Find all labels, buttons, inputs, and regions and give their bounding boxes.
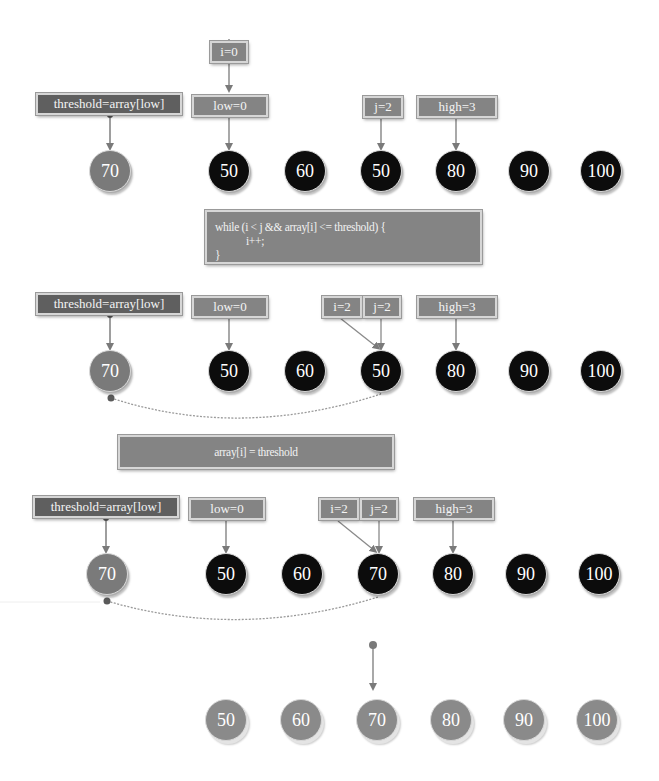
code-block-while-loop: while (i < j && array[i] <= threshold) {… — [205, 210, 482, 264]
array-node: 60 — [284, 150, 326, 192]
array-node: 80 — [435, 350, 477, 392]
j-pointer-label: j=2 — [363, 296, 401, 318]
result-arrow — [369, 641, 377, 688]
code-line: while (i < j && array[i] <= threshold) { — [215, 220, 472, 234]
array-node: 50 — [208, 350, 250, 392]
result-node: 80 — [430, 699, 472, 741]
threshold-label: threshold=array[low] — [36, 93, 182, 115]
array-node: 90 — [508, 350, 550, 392]
result-node: 90 — [503, 699, 545, 741]
threshold-node: 70 — [89, 350, 131, 392]
threshold-node: 70 — [86, 553, 128, 595]
array-node: 50 — [208, 150, 250, 192]
array-node: 50 — [360, 350, 402, 392]
high-pointer-label: high=3 — [414, 498, 494, 520]
connector-layer — [0, 0, 659, 781]
array-node: 60 — [284, 350, 326, 392]
i-pointer-label: i=2 — [319, 498, 359, 520]
diagram-canvas: i=0 threshold=array[low] low=0 j=2 high=… — [0, 0, 659, 781]
array-node: 50 — [205, 553, 247, 595]
code-line: i++; — [215, 234, 472, 248]
array-node: 80 — [432, 553, 474, 595]
code-line: } — [215, 248, 472, 262]
array-node: 90 — [505, 553, 547, 595]
high-pointer-label: high=3 — [417, 96, 497, 118]
result-node: 60 — [280, 699, 322, 741]
low-pointer-label: low=0 — [189, 498, 265, 520]
array-node: 100 — [580, 150, 622, 192]
array-node: 100 — [580, 350, 622, 392]
array-node: 60 — [281, 553, 323, 595]
step2-arrows — [107, 312, 456, 418]
result-node: 100 — [576, 699, 618, 741]
low-pointer-label: low=0 — [192, 95, 268, 117]
array-node: 50 — [360, 150, 402, 192]
array-node: 100 — [578, 553, 620, 595]
result-node: 70 — [356, 699, 398, 741]
i-pointer-label: i=2 — [322, 296, 362, 318]
j-pointer-label: j=2 — [360, 498, 398, 520]
low-pointer-label: low=0 — [192, 296, 268, 318]
threshold-node: 70 — [89, 150, 131, 192]
high-pointer-label: high=3 — [417, 296, 497, 318]
i-pointer-label: i=0 — [210, 41, 248, 63]
threshold-label: threshold=array[low] — [36, 293, 182, 315]
j-pointer-label: j=2 — [363, 96, 403, 118]
result-node: 50 — [205, 699, 247, 741]
array-node: 80 — [435, 150, 477, 192]
array-node: 70 — [357, 553, 399, 595]
code-block-assignment: array[i] = threshold — [118, 435, 394, 469]
threshold-label: threshold=array[low] — [33, 496, 179, 518]
array-node: 90 — [508, 150, 550, 192]
